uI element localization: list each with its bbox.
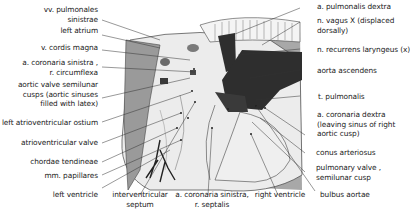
label-mm-papillares: mm. papillares xyxy=(44,171,98,181)
label-line: v. cordis magna xyxy=(41,43,98,53)
label-line: left ventricle xyxy=(53,190,98,200)
label-aorta-ascendens: aorta ascendens xyxy=(317,66,377,76)
label-right-ventricle: right ventricle xyxy=(250,190,310,200)
label-line: mm. papillares xyxy=(44,171,98,181)
label-interventricular-septum: interventricular septum xyxy=(103,190,177,209)
label-line: aortic cusp) xyxy=(317,129,395,139)
label-line: r. septalis xyxy=(170,200,254,210)
label-pulmonary-valve-semilunar-cusp: pulmonary valve , semilunar cusp xyxy=(316,163,381,182)
label-line: semilunar cusp xyxy=(316,173,381,183)
label-left-ventricle: left ventricle xyxy=(53,190,98,200)
label-vv-pulmonales-sinistrae: vv. pulmonales sinistrae xyxy=(44,5,98,24)
label-aortic-valve-semilunar-cusps: aortic valve semilunar cusps (aortic sin… xyxy=(18,80,98,109)
label-chordae-tendineae: chordae tendineae xyxy=(30,157,98,167)
label-line: right ventricle xyxy=(250,190,310,200)
label-line: filled with latex) xyxy=(18,99,98,109)
label-left-atrioventricular-ostium: left atrioventricular ostium xyxy=(2,118,98,128)
label-line: interventricular xyxy=(103,190,177,200)
label-line: conus arteriosus xyxy=(316,148,376,158)
label-line: n. recurrens laryngeus (x) xyxy=(317,45,410,55)
label-line: sinistrae xyxy=(44,15,98,25)
label-line: n. vagus X (displaced xyxy=(317,16,394,26)
label-line: aortic valve semilunar xyxy=(18,80,98,90)
label-line: bulbus aortae xyxy=(320,190,370,200)
label-line: a. pulmonalis dextra xyxy=(317,2,391,12)
label-n-recurrens-laryngeus: n. recurrens laryngeus (x) xyxy=(317,45,410,55)
label-line: septum xyxy=(103,200,177,210)
label-conus-arteriosus: conus arteriosus xyxy=(316,148,376,158)
label-line: a. coronaria dextra xyxy=(317,110,395,120)
label-line: r. circumflexa xyxy=(22,68,98,78)
label-t-pulmonalis: t. pulmonalis xyxy=(318,92,365,102)
label-v-cordis-magna: v. cordis magna xyxy=(41,43,98,53)
label-a-coronaria-sinistra-circumflexa: a. coronaria sinistra , r. circumflexa xyxy=(22,58,98,77)
label-left-atrium: left atrium xyxy=(60,26,98,36)
label-line: left atrium xyxy=(60,26,98,36)
label-a-pulmonalis-dextra: a. pulmonalis dextra xyxy=(317,2,391,12)
label-line: vv. pulmonales xyxy=(44,5,98,15)
label-a-coronaria-dextra: a. coronaria dextra (leaving sinus of ri… xyxy=(317,110,395,139)
label-line: atrioventricular valve xyxy=(21,138,98,148)
label-line: chordae tendineae xyxy=(30,157,98,167)
label-line: aorta ascendens xyxy=(317,66,377,76)
label-line: dorsally) xyxy=(317,26,394,36)
label-line: pulmonary valve , xyxy=(316,163,381,173)
label-atrioventricular-valve: atrioventricular valve xyxy=(21,138,98,148)
label-n-vagus: n. vagus X (displaced dorsally) xyxy=(317,16,394,35)
label-a-coronaria-sinistra-septalis: a. coronaria sinistra, r. septalis xyxy=(170,190,254,209)
label-line: left atrioventricular ostium xyxy=(2,118,98,128)
label-line: (leaving sinus of right xyxy=(317,120,395,130)
label-line: cusps (aortic sinuses xyxy=(18,90,98,100)
label-line: a. coronaria sinistra, xyxy=(170,190,254,200)
label-bulbus-aortae: bulbus aortae xyxy=(320,190,370,200)
label-line: t. pulmonalis xyxy=(318,92,365,102)
label-line: a. coronaria sinistra , xyxy=(22,58,98,68)
